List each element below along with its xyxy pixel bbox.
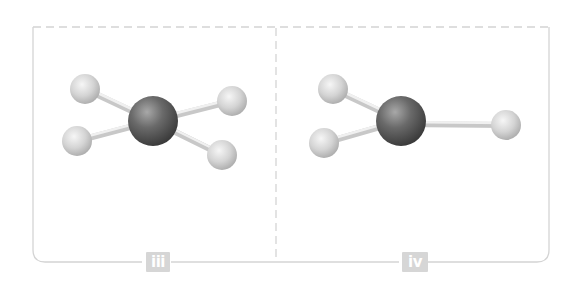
ligand-atom [207,140,237,170]
molecule-iii [62,74,247,170]
panel-label-iii: iii [146,252,170,272]
diagram-canvas [0,0,583,285]
molecular-geometry-diagram: iii iv [0,0,583,285]
panel-label-iv: iv [402,252,428,272]
ligand-atom [70,74,100,104]
ligand-atom [318,74,348,104]
frame-right [427,27,549,262]
ligand-atom [217,86,247,116]
central-atom [128,96,178,146]
molecule-iv [309,74,521,158]
ligand-atom [62,126,92,156]
panel-frame [33,27,549,262]
central-atom [376,96,426,146]
ligand-atom [309,128,339,158]
ligand-atom [491,110,521,140]
